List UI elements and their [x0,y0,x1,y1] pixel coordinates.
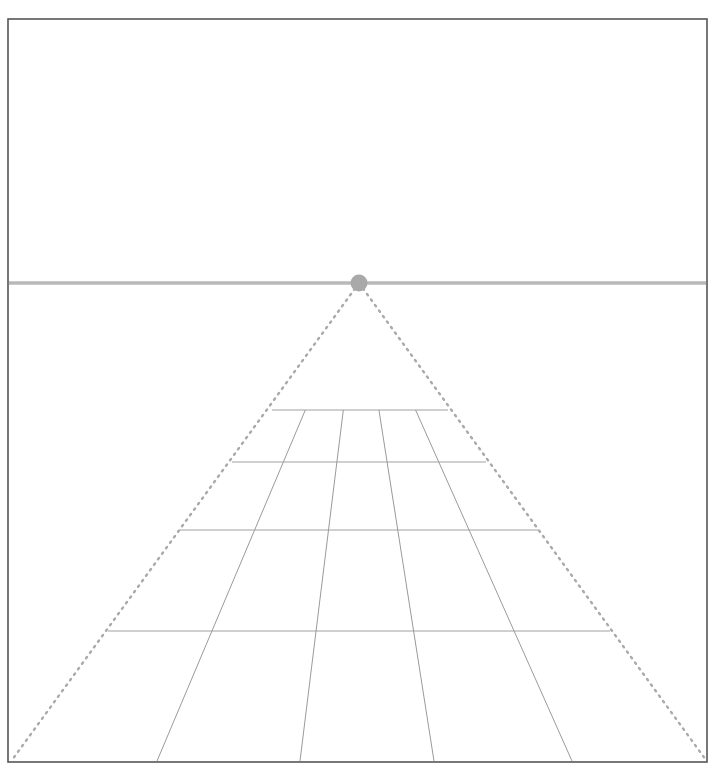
canvas-background [0,0,718,772]
vanishing-point-dot [351,275,368,292]
perspective-grid-figure [0,0,718,772]
perspective-drawing-canvas [0,0,718,772]
